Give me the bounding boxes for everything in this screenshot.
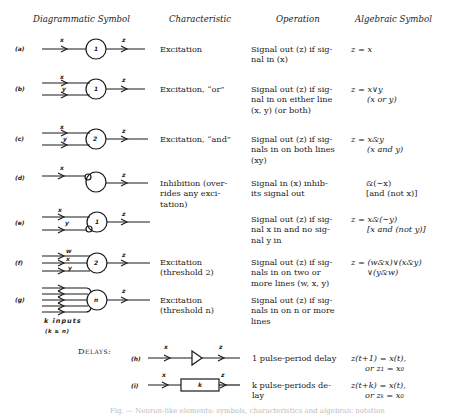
characteristic-f: Excitation(threshold 2) <box>160 257 214 278</box>
row-label-i: (i) <box>131 382 139 389</box>
input-label-w: w <box>66 247 72 254</box>
algebraic-c: z = x&y(x and y) <box>351 134 403 155</box>
input-label-y: y <box>68 264 72 271</box>
row-label-f: (f) <box>15 259 23 266</box>
figure-caption: Fig. — Neuron-like elements: symbols, ch… <box>110 407 385 415</box>
row-label-g: (g) <box>15 296 25 303</box>
threshold-label: 1 <box>94 45 98 52</box>
output-label-z: z <box>122 287 126 294</box>
delay-input-label-x: x <box>164 343 168 350</box>
output-label-z: z <box>122 171 126 178</box>
output-label-z: z <box>122 76 126 83</box>
algebraic-d: &(∼x)[and (not x)] <box>366 178 418 199</box>
input-label-x: x <box>60 36 64 43</box>
row-label-a: (a) <box>15 45 25 52</box>
operation-a: Signal out (z) if sig-nal in (x) <box>251 44 332 65</box>
delay-algebraic-i: z(t+k) = x(t),or zₖ = x₀ <box>351 380 406 401</box>
threshold-label: 1 <box>94 85 98 92</box>
operation-e: Signal out (z) if sig-nal x in and no si… <box>251 214 332 245</box>
threshold-label: 2 <box>94 259 98 266</box>
input-label-x: x <box>60 164 64 171</box>
operation-b: Signal out (z) if sig-nal in on either l… <box>251 84 332 115</box>
input-label-y: y <box>65 219 69 226</box>
input-label-x: x <box>58 206 62 213</box>
threshold-label: n <box>94 296 98 303</box>
characteristic-d: Inhibition (over-rides any exci-tation) <box>160 178 227 209</box>
row-label-b: (b) <box>15 85 25 92</box>
input-label-x: x <box>66 255 70 262</box>
row-label-h: (h) <box>131 355 141 362</box>
output-label-z: z <box>122 251 126 258</box>
delay-output-label-z: z <box>219 343 223 350</box>
row-label-e: (e) <box>15 219 25 226</box>
algebraic-b: z = x∨y(x or y) <box>351 84 397 105</box>
algebraic-e: z = x&(∼y)[x and (not y)] <box>351 214 426 235</box>
row-label-d: (d) <box>15 174 25 181</box>
input-label-y: y <box>63 135 67 142</box>
delay-algebraic-h: z(t+1) = x(t),or z₁ = x₀ <box>351 353 406 374</box>
characteristic-a: Excitation <box>160 44 202 54</box>
inputs-condition: (k ≥ n) <box>45 328 70 334</box>
input-label-x: x <box>60 73 64 80</box>
threshold-label: 1 <box>95 218 99 225</box>
output-label-z: z <box>122 127 126 134</box>
input-label-y: y <box>62 85 66 92</box>
neuron-symbol-d <box>42 172 148 192</box>
delay-description-h: 1 pulse-period delay <box>252 353 336 363</box>
operation-g: Signal out (z) if sig-nals in on n or mo… <box>251 295 335 326</box>
algebraic-f: z = (w&x)∨(x&y)∨(y&w) <box>351 257 422 278</box>
characteristic-g: Excitation(threshold n) <box>160 295 214 316</box>
algebraic-a: z = x <box>351 44 372 54</box>
delay-box-label: k <box>198 381 202 388</box>
delay-output-label-z: z <box>221 371 225 378</box>
characteristic-b: Excitation, “or” <box>160 84 225 94</box>
delay-symbol-h <box>148 351 240 365</box>
inputs-note: k inputs <box>44 317 82 325</box>
threshold-label: 2 <box>93 135 97 142</box>
delay-input-label-x: x <box>162 371 166 378</box>
characteristic-c: Excitation, “and” <box>160 134 231 144</box>
output-label-z: z <box>122 36 126 43</box>
operation-c: Signal out (z) if sig-nals in on both li… <box>251 134 335 165</box>
delay-symbol-i <box>148 379 240 391</box>
delay-description-i: k pulse-periods de-lay <box>252 380 331 401</box>
output-label-z: z <box>122 210 126 217</box>
input-label-x: x <box>60 123 64 130</box>
operation-f: Signal out (z) if sig-nals in on two orm… <box>251 257 332 288</box>
delays-title: Delays: <box>78 346 111 356</box>
operation-d: Signal in (x) inhib-its signal out <box>251 178 328 199</box>
row-label-c: (c) <box>15 135 24 142</box>
